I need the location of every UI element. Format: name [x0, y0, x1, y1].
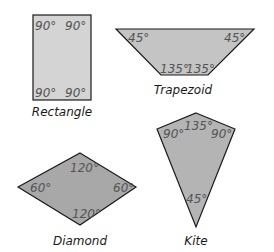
diamond-angle-top: 120° [70, 161, 99, 175]
quadrilaterals-diagram: 90° 90° 90° 90° Rectangle 45° 45° 135° 1… [0, 0, 274, 252]
diamond-figure: 120° 60° 60° 120° Diamond [18, 153, 136, 248]
diamond-angle-left: 60° [30, 181, 51, 195]
trapezoid-angle-bottom-right: 135° [186, 62, 215, 76]
rectangle-caption: Rectangle [32, 105, 92, 119]
diamond-angle-bottom: 120° [72, 207, 101, 221]
trapezoid-angle-bottom-left: 135° [160, 62, 189, 76]
trapezoid-angle-top-left: 45° [128, 31, 149, 45]
kite-angle-left: 90° [163, 127, 184, 141]
kite-angle-top: 135° [184, 119, 213, 133]
rectangle-angle-bottom-left: 90° [35, 86, 56, 100]
rectangle-angle-top-right: 90° [65, 19, 86, 33]
trapezoid-angle-top-right: 45° [224, 31, 245, 45]
kite-angle-right: 90° [211, 127, 232, 141]
trapezoid-caption: Trapezoid [154, 83, 213, 97]
rectangle-figure: 90° 90° 90° 90° Rectangle [32, 15, 92, 119]
kite-figure: 135° 90° 90° 45° Kite [157, 113, 235, 248]
kite-angle-bottom: 45° [186, 192, 207, 206]
diamond-caption: Diamond [53, 234, 108, 248]
rectangle-angle-top-left: 90° [35, 19, 56, 33]
kite-caption: Kite [184, 234, 207, 248]
trapezoid-figure: 45° 45° 135° 135° Trapezoid [116, 29, 254, 97]
diamond-angle-right: 60° [113, 181, 134, 195]
rectangle-angle-bottom-right: 90° [65, 86, 86, 100]
